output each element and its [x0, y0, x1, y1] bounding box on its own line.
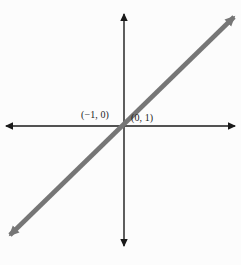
- coordinate-plane-svg: [0, 0, 241, 265]
- y-intercept-label: (0, 1): [131, 112, 153, 124]
- coordinate-plane-figure: (−1, 0) (0, 1): [0, 0, 241, 265]
- x-intercept-label: (−1, 0): [81, 109, 109, 121]
